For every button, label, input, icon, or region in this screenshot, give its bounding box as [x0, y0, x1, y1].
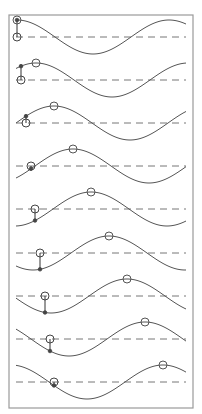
wave-panel — [16, 232, 186, 271]
particle-dot — [52, 384, 56, 388]
particle-dot — [38, 267, 42, 271]
wave-panel — [16, 188, 186, 226]
wave-panel — [13, 16, 186, 54]
wave-panel — [16, 361, 186, 399]
wave-panel — [16, 318, 186, 356]
diagram-frame — [9, 15, 193, 408]
particle-dot — [29, 167, 33, 171]
wave-panel — [16, 59, 186, 97]
particle-dot — [48, 349, 52, 353]
particle-dot — [24, 114, 28, 118]
particle-dot — [15, 18, 19, 22]
wave-panel — [16, 102, 186, 140]
particle-dot — [19, 64, 23, 68]
particle-dot — [43, 311, 47, 315]
particle-dot — [33, 219, 37, 223]
wave-panels — [13, 16, 186, 399]
wave-panel — [16, 145, 186, 183]
wave-panel — [16, 275, 186, 314]
wave-diagram — [0, 0, 202, 414]
